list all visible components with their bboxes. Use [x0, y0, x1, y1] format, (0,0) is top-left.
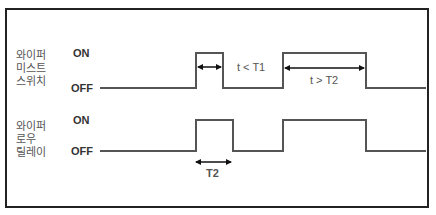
timing-waveforms — [0, 0, 436, 215]
waveform-wiper-low-relay — [100, 120, 426, 151]
annotation-long-pulse: t > T2 — [310, 74, 338, 86]
annotation-short-pulse: t < T1 — [237, 61, 265, 73]
annotation-relay-duration: T2 — [206, 167, 219, 179]
